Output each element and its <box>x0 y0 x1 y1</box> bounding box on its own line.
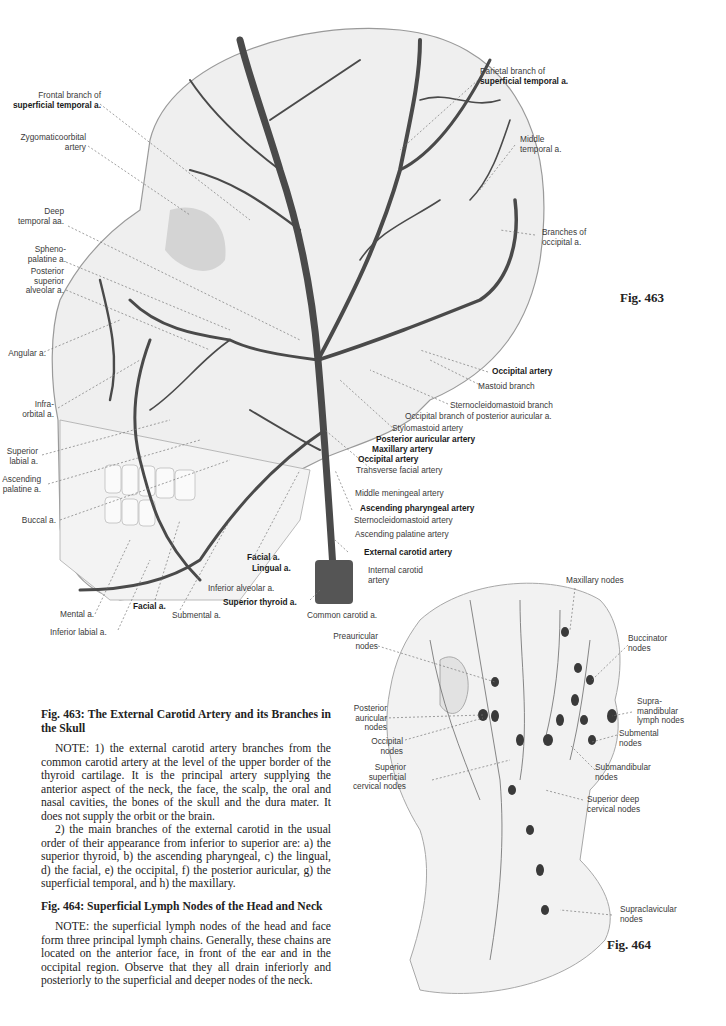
label-text: nodes <box>619 739 659 749</box>
label-text: nodes <box>620 915 677 925</box>
fig464-caption-title: Fig. 464: Superficial Lymph Nodes of the… <box>41 900 331 914</box>
label-text: lymph nodes <box>637 716 684 726</box>
label-submental-nodes: Submental nodes <box>619 729 659 748</box>
head-neck-outline <box>387 583 620 993</box>
label-occipital-nodes: Occipital nodes <box>371 737 403 756</box>
label-supraclavicular-nodes: Supraclavicular nodes <box>620 905 677 924</box>
label-text: nodes <box>628 644 667 654</box>
label-supramandibular-nodes: Supra- mandibular lymph nodes <box>637 697 684 726</box>
fig464-note: NOTE: the superficial lymph nodes of the… <box>41 920 331 988</box>
fig463-note-2: 2) the main branches of the external car… <box>41 823 331 891</box>
label-submandibular-nodes: Submandibular nodes <box>595 763 651 782</box>
label-text: cervical nodes <box>587 805 640 815</box>
label-text: cervical nodes <box>353 782 406 792</box>
label-posterior-auricular-nodes: Posterior auricular nodes <box>354 704 387 733</box>
label-superior-superficial-cervical-nodes: Superior superficial cervical nodes <box>353 763 406 792</box>
label-preauricular-nodes: Preauricular nodes <box>333 632 378 651</box>
caption-block: Fig. 463: The External Carotid Artery an… <box>41 708 331 988</box>
label-text: nodes <box>371 747 403 757</box>
fig464-number: Fig. 464 <box>607 937 651 953</box>
fig463-caption-title: Fig. 463: The External Carotid Artery an… <box>41 708 331 735</box>
label-text: nodes <box>354 723 387 733</box>
label-text: nodes <box>333 642 378 652</box>
label-superior-deep-cervical-nodes: Superior deep cervical nodes <box>587 795 640 814</box>
label-buccinator-nodes: Buccinator nodes <box>628 634 667 653</box>
fig463-note-1: NOTE: 1) the external carotid artery bra… <box>41 742 331 823</box>
label-maxillary-nodes: Maxillary nodes <box>566 576 624 586</box>
label-text: nodes <box>595 773 651 783</box>
